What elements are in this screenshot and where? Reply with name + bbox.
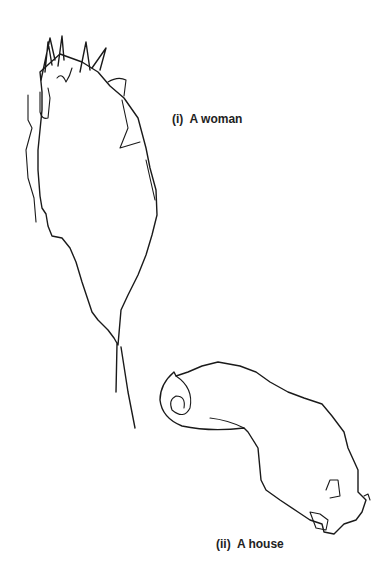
- drawings-canvas: [0, 0, 390, 573]
- caption-woman: (i) A woman: [172, 112, 242, 126]
- woman-left-arm: [26, 95, 36, 222]
- caption-house: (ii) A house: [216, 537, 284, 551]
- woman-legs: [116, 344, 135, 428]
- woman-body-outline: [38, 54, 157, 345]
- woman-face: [40, 68, 72, 118]
- woman-drawing: [26, 36, 157, 428]
- house-left-detail: [171, 376, 244, 428]
- woman-right-hand: [108, 78, 155, 200]
- house-door: [310, 480, 340, 530]
- woman-hair: [41, 36, 106, 80]
- house-drawing: [160, 362, 370, 534]
- house-outline: [160, 362, 366, 534]
